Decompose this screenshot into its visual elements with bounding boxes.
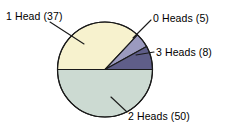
pie-chart-figure: 1 Head (37) 0 Heads (5) 3 Heads (8) 2 He… bbox=[0, 0, 233, 130]
pie-label-0-heads: 0 Heads (5) bbox=[153, 13, 209, 24]
pie-label-2-heads: 2 Heads (50) bbox=[128, 111, 190, 122]
pie-label-1-head: 1 Head (37) bbox=[6, 11, 63, 22]
pie-label-3-heads: 3 Heads (8) bbox=[156, 47, 212, 58]
leader-line-0-heads bbox=[133, 20, 151, 38]
